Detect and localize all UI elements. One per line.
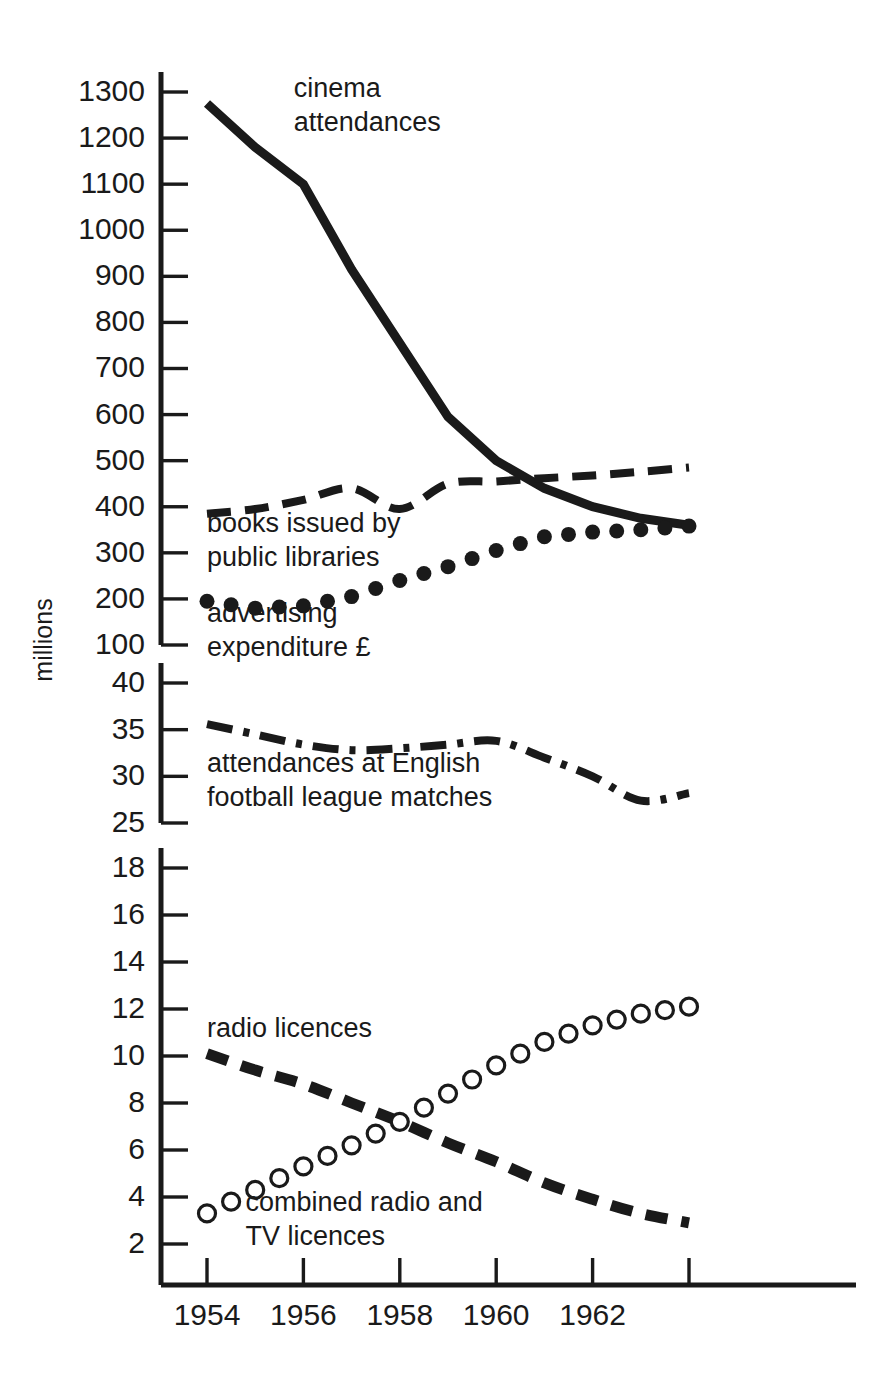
axis-group: 1300120011001000900800700600500400300200… bbox=[29, 72, 856, 1331]
y-axis-tick-label: 200 bbox=[95, 581, 145, 614]
y-axis-title: millions bbox=[29, 598, 57, 681]
y-axis-tick-label: 500 bbox=[95, 443, 145, 476]
x-axis-tick-label: 1956 bbox=[270, 1298, 337, 1331]
annotation-group: cinemaattendancesbooks issued bypublic l… bbox=[207, 73, 492, 1251]
data-point-marker bbox=[343, 1137, 360, 1154]
series-label-combined-radio-and-tv-licences: combined radio and bbox=[246, 1187, 483, 1217]
series-label-books-issued-by-public-libraries: books issued by bbox=[207, 508, 401, 538]
line-chart: 1300120011001000900800700600500400300200… bbox=[0, 0, 893, 1381]
series-label-cinema-attendances: cinema bbox=[294, 73, 382, 103]
x-axis-tick-label: 1962 bbox=[559, 1298, 626, 1331]
series-label-cinema-attendances: attendances bbox=[294, 107, 441, 137]
y-axis-tick-label: 25 bbox=[112, 805, 145, 838]
y-axis-tick-label: 300 bbox=[95, 535, 145, 568]
data-point-marker bbox=[633, 522, 648, 537]
y-axis-tick-label: 40 bbox=[112, 665, 145, 698]
y-axis-tick-label: 4 bbox=[128, 1179, 145, 1212]
y-axis-tick-label: 8 bbox=[128, 1085, 145, 1118]
data-point-marker bbox=[223, 1193, 240, 1210]
data-point-marker bbox=[271, 1170, 288, 1187]
data-point-marker bbox=[199, 1205, 216, 1222]
data-point-marker bbox=[465, 551, 480, 566]
data-point-marker bbox=[682, 519, 697, 534]
data-point-marker bbox=[561, 527, 576, 542]
series-label-advertising-expenditure: expenditure £ bbox=[207, 632, 371, 662]
data-point-marker bbox=[513, 536, 528, 551]
data-point-marker bbox=[609, 523, 624, 538]
data-point-marker bbox=[585, 525, 600, 540]
y-axis-tick-label: 400 bbox=[95, 489, 145, 522]
data-point-marker bbox=[488, 1057, 505, 1074]
series-label-attendances-at-english-football-league-matches: attendances at English bbox=[207, 748, 480, 778]
data-point-marker bbox=[681, 998, 698, 1015]
data-point-marker bbox=[608, 1011, 625, 1028]
y-axis-tick-label: 12 bbox=[112, 991, 145, 1024]
x-axis-tick-label: 1958 bbox=[366, 1298, 433, 1331]
data-point-marker bbox=[391, 1113, 408, 1130]
series-label-attendances-at-english-football-league-matches: football league matches bbox=[207, 782, 492, 812]
data-point-marker bbox=[489, 543, 504, 558]
data-point-marker bbox=[464, 1071, 481, 1088]
series-line bbox=[207, 104, 689, 526]
x-axis-tick-label: 1960 bbox=[463, 1298, 530, 1331]
series-label-advertising-expenditure: advertising bbox=[207, 598, 338, 628]
y-axis-tick-label: 10 bbox=[112, 1038, 145, 1071]
y-axis-tick-label: 1300 bbox=[78, 74, 145, 107]
data-point-marker bbox=[584, 1017, 601, 1034]
y-axis-tick-label: 35 bbox=[112, 712, 145, 745]
data-point-marker bbox=[560, 1025, 577, 1042]
series-label-books-issued-by-public-libraries: public libraries bbox=[207, 542, 380, 572]
data-point-marker bbox=[368, 581, 383, 596]
y-axis-tick-label: 6 bbox=[128, 1132, 145, 1165]
series-label-combined-radio-and-tv-licences: TV licences bbox=[246, 1221, 386, 1251]
series-line bbox=[207, 468, 689, 514]
y-axis-tick-label: 1100 bbox=[80, 166, 145, 199]
y-axis-tick-label: 30 bbox=[112, 758, 145, 791]
y-axis-tick-label: 900 bbox=[95, 258, 145, 291]
data-point-marker bbox=[632, 1005, 649, 1022]
y-axis-tick-label: 14 bbox=[112, 944, 145, 977]
data-point-marker bbox=[416, 566, 431, 581]
y-axis-tick-label: 16 bbox=[112, 897, 145, 930]
x-axis-tick-label: 1954 bbox=[174, 1298, 241, 1331]
data-point-marker bbox=[415, 1099, 432, 1116]
y-axis-tick-label: 2 bbox=[128, 1226, 145, 1259]
y-axis-tick-label: 1000 bbox=[78, 212, 145, 245]
data-point-marker bbox=[657, 520, 672, 535]
data-point-marker bbox=[656, 1002, 673, 1019]
y-axis-tick-label: 18 bbox=[112, 850, 145, 883]
data-point-marker bbox=[344, 589, 359, 604]
y-axis-tick-label: 800 bbox=[95, 304, 145, 337]
data-point-marker bbox=[319, 1147, 336, 1164]
series-books-issued-by-public-libraries bbox=[207, 468, 689, 514]
data-point-marker bbox=[295, 1158, 312, 1175]
data-point-marker bbox=[536, 1033, 553, 1050]
series-label-radio-licences: radio licences bbox=[207, 1013, 372, 1043]
series-group bbox=[199, 104, 698, 1223]
data-point-marker bbox=[367, 1125, 384, 1142]
series-cinema-attendances bbox=[207, 104, 689, 526]
y-axis-tick-label: 700 bbox=[95, 350, 145, 383]
data-point-marker bbox=[512, 1045, 529, 1062]
data-point-marker bbox=[440, 1085, 457, 1102]
data-point-marker bbox=[537, 529, 552, 544]
y-axis-tick-label: 600 bbox=[95, 397, 145, 430]
data-point-marker bbox=[441, 559, 456, 574]
chart-container: 1300120011001000900800700600500400300200… bbox=[0, 0, 893, 1381]
y-axis-tick-label: 100 bbox=[95, 627, 145, 660]
data-point-marker bbox=[392, 573, 407, 588]
y-axis-tick-label: 1200 bbox=[78, 120, 145, 153]
